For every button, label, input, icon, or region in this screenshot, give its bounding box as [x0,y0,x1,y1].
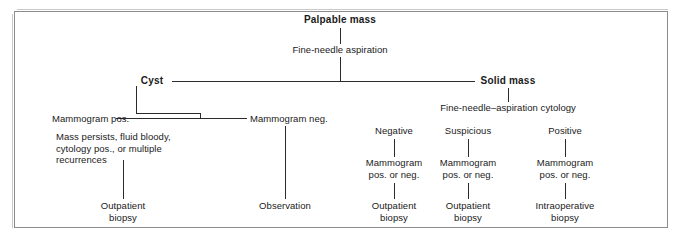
connector-cyst-step-upper [136,113,201,114]
connector-negative-to-mammogram [394,139,395,157]
connector-aspiration-to-split [340,57,341,81]
positive-mammogram-line-2: pos. or neg. [540,169,591,180]
frame-highlight-left [12,14,13,228]
node-solid-mass: Solid mass [481,75,536,86]
node-cyst-outpatient-biopsy: Outpatient biopsy [78,200,168,223]
node-cytology-suspicious: Suspicious [445,125,491,136]
positive-mammogram-line-1: Mammogram [537,157,593,168]
cyst-criteria-line-2: cytology pos., or multiple [56,143,162,154]
connector-main-split-bar [172,81,475,82]
node-cyst-mammogram-pos: Mammogram pos. [52,113,129,124]
node-cyst: Cyst [141,75,163,86]
node-fna-cytology: Fine-needle–aspiration cytology [440,102,576,113]
suspicious-mammogram-line-1: Mammogram [440,157,496,168]
cyst-outcome-line-1: Outpatient [101,200,145,211]
connector-positive-to-mammogram [565,139,566,157]
cyst-criteria-line-3: recurrences [56,154,107,165]
connector-suspicious-to-mammogram [468,139,469,157]
node-cyst-criteria: Mass persists, fluid bloody, cytology po… [56,131,216,166]
node-positive-mammogram: Mammogram pos. or neg. [519,157,611,180]
frame-highlight-top [17,9,668,10]
node-cytology-negative: Negative [375,125,413,136]
connector-solid-to-cytology [508,88,509,102]
negative-outcome-line-1: Outpatient [372,200,416,211]
connector-root-to-aspiration [340,28,341,44]
connector-cyst-drop [136,86,137,113]
negative-mammogram-line-1: Mammogram [366,157,422,168]
flowchart-figure: Palpable mass Fine-needle aspiration Cys… [0,0,683,243]
suspicious-outcome-line-1: Outpatient [446,200,490,211]
positive-outcome-line-1: Intraoperative [536,200,595,211]
suspicious-outcome-line-2: biopsy [454,212,482,223]
negative-mammogram-line-2: pos. or neg. [369,169,420,180]
node-suspicious-mammogram: Mammogram pos. or neg. [423,157,513,180]
node-cytology-positive: Positive [548,125,582,136]
node-suspicious-outcome: Outpatient biopsy [423,200,513,223]
connector-negative-to-biopsy [394,183,395,199]
connector-positive-to-biopsy [565,183,566,199]
node-positive-outcome: Intraoperative biopsy [515,200,615,223]
cyst-criteria-line-1: Mass persists, fluid bloody, [56,131,171,142]
negative-outcome-line-2: biopsy [380,212,408,223]
cyst-outcome-line-2: biopsy [109,212,137,223]
node-palpable-mass: Palpable mass [304,14,376,25]
connector-criteria-to-biopsy [123,160,124,199]
connector-suspicious-to-biopsy [468,183,469,199]
node-observation: Observation [259,200,311,211]
node-fine-needle-aspiration: Fine-needle aspiration [292,44,387,55]
positive-outcome-line-2: biopsy [551,212,579,223]
connector-mammogram-neg-to-observation [285,126,286,199]
suspicious-mammogram-line-2: pos. or neg. [443,169,494,180]
connector-mammogram-neg-link [200,118,247,119]
node-cyst-mammogram-neg: Mammogram neg. [250,113,328,124]
